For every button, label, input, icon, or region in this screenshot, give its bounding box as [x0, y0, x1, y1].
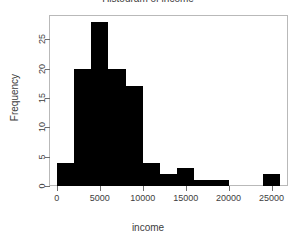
x-axis: 0500010000150002000025000 — [49, 186, 288, 196]
x-axis-tick-label: 25000 — [259, 193, 284, 203]
y-axis-line — [49, 15, 50, 186]
bars-layer — [50, 16, 287, 186]
y-axis-tick-label: 10 — [37, 122, 47, 132]
histogram-bar — [177, 168, 194, 186]
y-axis-tick-label: 20 — [37, 64, 47, 74]
histogram-bar — [263, 174, 280, 186]
x-axis-tick — [186, 186, 187, 191]
histogram-bar — [57, 163, 74, 186]
histogram-bar — [126, 86, 143, 186]
x-axis-tick — [229, 186, 230, 191]
x-axis-tick-label: 0 — [54, 193, 59, 203]
y-axis: 0510152025 — [41, 15, 50, 186]
x-axis-tick-label: 5000 — [90, 193, 110, 203]
y-axis-tick-label: 25 — [37, 34, 47, 44]
x-axis-tick — [272, 186, 273, 191]
x-axis-tick — [143, 186, 144, 191]
x-axis-tick — [100, 186, 101, 191]
y-axis-tick-label: 15 — [37, 93, 47, 103]
histogram-bar — [74, 69, 91, 186]
y-axis-title: Frequency — [9, 63, 20, 133]
x-axis-tick-label: 15000 — [173, 193, 198, 203]
x-axis-tick-label: 10000 — [130, 193, 155, 203]
histogram-bar — [108, 69, 125, 186]
chart-title: Histogram of income — [0, 0, 296, 2]
histogram-bar — [160, 174, 177, 186]
histogram-bar — [143, 163, 160, 186]
histogram-bar — [91, 22, 108, 186]
y-axis-tick-label: 0 — [37, 183, 47, 188]
histogram-figure: Histogram of income 0510152025 050001000… — [0, 0, 296, 244]
x-axis-title: income — [0, 222, 296, 233]
x-axis-tick — [57, 186, 58, 191]
x-axis-tick-label: 20000 — [216, 193, 241, 203]
y-axis-tick-label: 5 — [37, 154, 47, 159]
